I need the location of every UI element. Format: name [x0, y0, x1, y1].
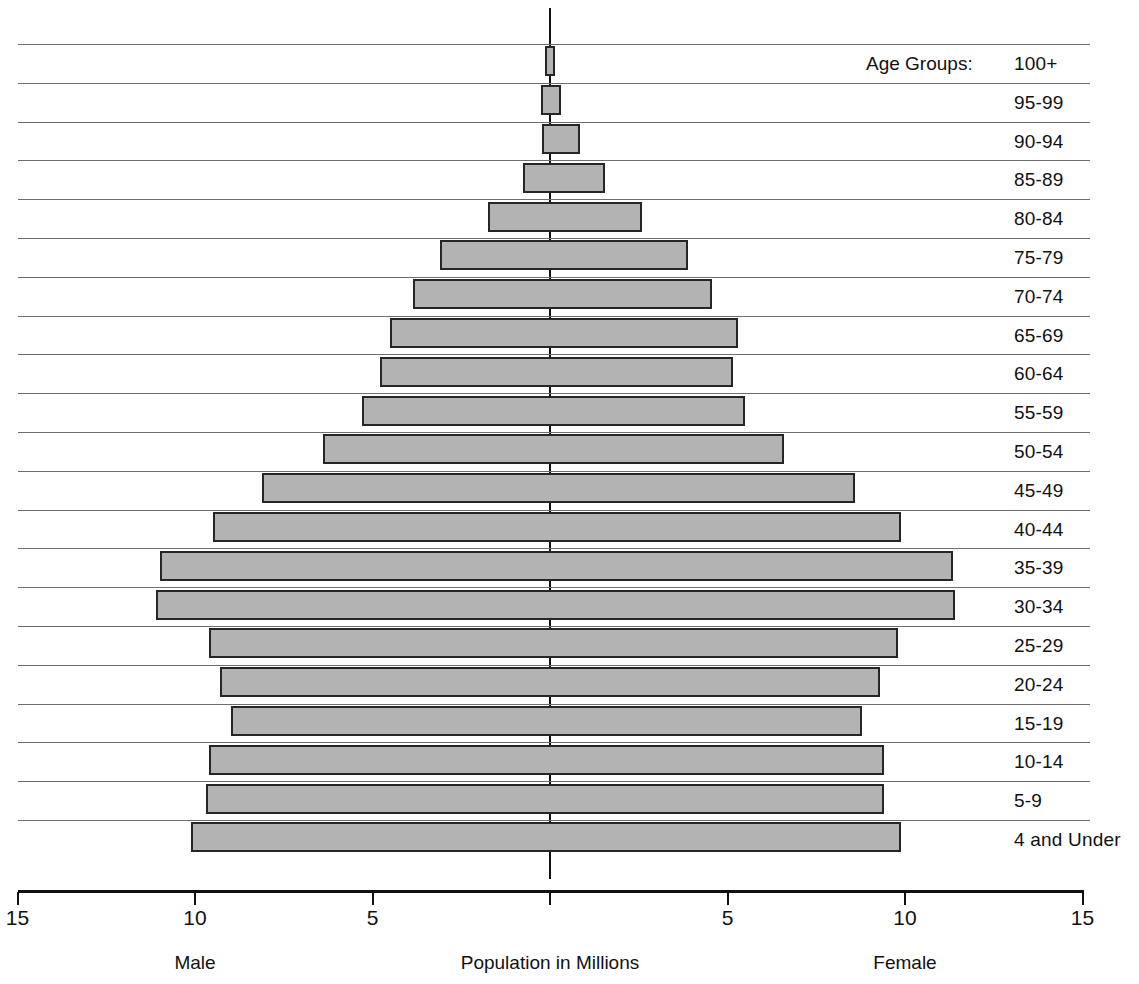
age-label: 10-14 [1014, 751, 1064, 773]
axis-tick [1082, 892, 1084, 905]
bar-30-34 [156, 590, 955, 620]
bar-50-54 [323, 434, 785, 464]
age-label: 5-9 [1014, 790, 1042, 812]
age-label: 35-39 [1014, 557, 1064, 579]
age-label: 50-54 [1014, 441, 1064, 463]
bar-65-69 [390, 318, 738, 348]
axis-tick-label: 5 [367, 906, 379, 930]
bar-40-44 [213, 512, 902, 542]
age-label: 65-69 [1014, 325, 1064, 347]
bar-35-39 [160, 551, 953, 581]
axis-tick [727, 892, 729, 905]
axis-caption-female: Female [873, 952, 936, 974]
age-label: 20-24 [1014, 674, 1064, 696]
age-label: 25-29 [1014, 635, 1064, 657]
gridline [18, 510, 1090, 511]
gridline [18, 122, 1090, 123]
gridline [18, 548, 1090, 549]
axis-tick [17, 892, 19, 905]
gridline [18, 44, 1090, 45]
gridline [18, 199, 1090, 200]
axis-tick-label: 5 [722, 906, 734, 930]
gridline [18, 704, 1090, 705]
bar-75-79 [440, 240, 689, 270]
gridline [18, 277, 1090, 278]
bar-80-84 [488, 202, 642, 232]
gridline [18, 432, 1090, 433]
bar-95-99 [541, 85, 561, 115]
age-label: 75-79 [1014, 247, 1064, 269]
gridline [18, 587, 1090, 588]
bar-10-14 [209, 745, 884, 775]
bar-15-19 [231, 706, 863, 736]
gridline [18, 160, 1090, 161]
axis-tick-label: 15 [6, 906, 29, 930]
bar-100+ [545, 46, 556, 76]
age-label: 55-59 [1014, 402, 1064, 424]
gridline [18, 83, 1090, 84]
age-label: 60-64 [1014, 363, 1064, 385]
age-label: 30-34 [1014, 596, 1064, 618]
bar-20-24 [220, 667, 880, 697]
population-pyramid-chart: 100+95-9990-9485-8980-8475-7970-7465-696… [0, 0, 1139, 984]
bar-55-59 [362, 396, 745, 426]
bar-4-and-under [191, 822, 901, 852]
bar-5-9 [206, 784, 884, 814]
gridline [18, 238, 1090, 239]
age-label: 100+ [1014, 53, 1058, 75]
axis-tick [194, 892, 196, 905]
x-axis: 1510551015 Male Population in Millions F… [0, 884, 1139, 984]
gridline [18, 820, 1090, 821]
axis-tick [904, 892, 906, 905]
axis-baseline [18, 890, 1084, 893]
age-label: 70-74 [1014, 286, 1064, 308]
age-label: 45-49 [1014, 480, 1064, 502]
bar-25-29 [209, 628, 898, 658]
age-label: 85-89 [1014, 169, 1064, 191]
bar-85-89 [523, 163, 605, 193]
plot-area: 100+95-9990-9485-8980-8475-7970-7465-696… [0, 0, 1139, 884]
axis-tick-label: 15 [1071, 906, 1094, 930]
bar-90-94 [542, 124, 580, 154]
gridline [18, 742, 1090, 743]
axis-caption-population: Population in Millions [461, 952, 640, 974]
gridline [18, 393, 1090, 394]
age-label: 15-19 [1014, 713, 1064, 735]
age-label: 95-99 [1014, 92, 1064, 114]
age-label: 4 and Under [1014, 829, 1121, 851]
axis-tick [372, 892, 374, 905]
axis-tick-label: 10 [893, 906, 916, 930]
axis-tick [549, 892, 551, 905]
gridline [18, 626, 1090, 627]
bar-60-64 [380, 357, 733, 387]
age-label: 40-44 [1014, 519, 1064, 541]
axis-tick-label: 10 [183, 906, 206, 930]
gridline [18, 316, 1090, 317]
axis-caption-male: Male [174, 952, 215, 974]
age-label: 80-84 [1014, 208, 1064, 230]
gridline [18, 354, 1090, 355]
gridline [18, 781, 1090, 782]
bar-70-74 [413, 279, 711, 309]
age-label: 90-94 [1014, 131, 1064, 153]
gridline [18, 665, 1090, 666]
bar-45-49 [262, 473, 855, 503]
gridline [18, 471, 1090, 472]
age-groups-caption: Age Groups: [866, 53, 973, 75]
